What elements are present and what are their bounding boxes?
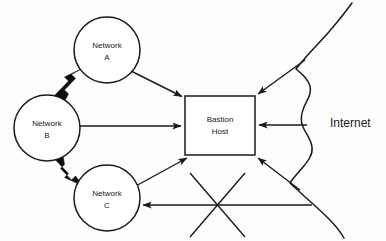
connection-internet-to-bastion-top — [258, 60, 305, 94]
connection-network-a-to-bastion — [131, 71, 182, 97]
node-network-c[interactable]: Network C — [74, 165, 140, 231]
node-bastion-host[interactable]: Bastion Host — [185, 96, 255, 155]
network-a-label-line1: Network — [92, 41, 122, 50]
bastion-host-label-line2: Host — [212, 127, 229, 136]
network-b-label-line2: B — [44, 131, 49, 140]
network-a-label-line2: A — [104, 53, 110, 62]
connection-network-c-to-bastion — [134, 158, 187, 187]
network-c-label-line2: C — [104, 201, 110, 210]
bastion-host-label-line1: Bastion — [207, 115, 234, 124]
connection-internet-to-bastion-bottom — [258, 158, 300, 190]
internet-label: Internet — [330, 116, 371, 130]
network-c-label-line1: Network — [92, 189, 122, 198]
node-network-a[interactable]: Network A — [74, 17, 140, 83]
network-diagram-canvas: Internet Network — [0, 0, 386, 241]
network-b-label-line1: Network — [32, 119, 62, 128]
network-topology-diagram: Internet Network — [0, 0, 386, 241]
node-network-b[interactable]: Network B — [14, 95, 80, 161]
bastion-host-box[interactable] — [185, 96, 255, 155]
